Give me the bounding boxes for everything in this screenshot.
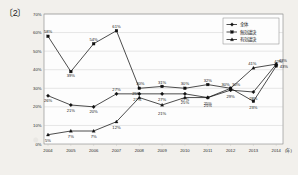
data-point-label: 39%: [67, 73, 76, 78]
data-point-label: 30%: [232, 82, 241, 87]
data-point-label: 29%: [226, 94, 235, 99]
x-axis-tick-label: 2006: [89, 148, 99, 153]
y-axis-tick-label: 60%: [33, 30, 42, 35]
x-axis-tick-label: 2011: [203, 148, 213, 153]
data-point-marker: [115, 29, 118, 32]
chart-plot-area: 0%10%20%30%40%50%60%70%20042005200620072…: [27, 8, 293, 168]
figure-label: 〔2〕: [4, 6, 26, 19]
data-point-label: 58%: [44, 29, 53, 34]
chart-screenshot: 〔2〕 0%10%20%30%40%50%60%70%2004200520062…: [0, 0, 298, 175]
data-point-marker: [47, 35, 50, 38]
data-point-label: 5%: [45, 138, 51, 143]
data-point-label: 32%: [204, 78, 213, 83]
data-point-label: 25%: [181, 100, 190, 105]
data-point-label: 30%: [221, 82, 230, 87]
x-axis-tick-label: 2013: [249, 148, 259, 153]
data-point-label: 43%: [279, 58, 288, 63]
x-axis-tick-label: 2014: [272, 148, 282, 153]
y-axis-tick-label: 20%: [33, 104, 42, 109]
data-point-label: 54%: [90, 37, 99, 42]
y-axis-tick-label: 50%: [33, 49, 42, 54]
legend-item-無効議決: 無効議決: [240, 29, 257, 36]
data-point-marker: [138, 87, 141, 90]
data-point-label: 41%: [248, 61, 257, 66]
line-chart: 0%10%20%30%40%50%60%70%20042005200620072…: [27, 8, 293, 168]
data-point-label: 7%: [91, 134, 97, 139]
data-point-marker: [184, 87, 187, 90]
data-point-label: 26%: [44, 98, 53, 103]
data-point-label: 27%: [158, 97, 167, 102]
x-axis-tick-label: 2009: [157, 148, 167, 153]
data-point-label: 7%: [68, 134, 74, 139]
data-point-label: 25%: [204, 103, 213, 108]
data-point-marker: [252, 100, 255, 103]
data-point-label: 61%: [112, 24, 121, 29]
x-axis-tick-label: 2007: [112, 148, 122, 153]
x-axis-tick-label: 2004: [43, 148, 53, 153]
y-axis-tick-label: 10%: [33, 123, 42, 128]
data-point-label: 21%: [67, 108, 76, 113]
data-point-label: 23%: [249, 105, 258, 110]
x-axis-tick-label: 2008: [135, 148, 145, 153]
data-point-marker: [161, 85, 164, 88]
y-axis-tick-label: 40%: [33, 67, 42, 72]
y-axis-tick-label: 0%: [35, 142, 41, 147]
legend-item-全体: 全体: [240, 21, 249, 28]
data-point-label: 21%: [158, 111, 167, 116]
legend-item-有効議決: 有効議決: [240, 36, 257, 43]
data-point-label: 20%: [90, 109, 99, 114]
y-axis-tick-label: 30%: [33, 86, 42, 91]
x-axis-tick-label: 2005: [66, 148, 76, 153]
data-point-label: 25%: [132, 91, 141, 96]
data-point-marker: [231, 31, 234, 34]
data-point-label: 30%: [181, 81, 190, 86]
y-axis-tick-label: 70%: [33, 12, 42, 17]
x-axis-tick-label: 2012: [226, 148, 236, 153]
data-point-marker: [92, 42, 95, 45]
data-point-label: 27%: [112, 87, 121, 92]
data-point-label: 31%: [158, 80, 167, 85]
data-point-marker: [206, 83, 209, 86]
x-axis-tick-label: 2010: [180, 148, 190, 153]
data-point-label: 30%: [136, 81, 145, 86]
x-axis-unit-label: (年): [285, 147, 292, 154]
data-point-label: 12%: [112, 125, 121, 130]
